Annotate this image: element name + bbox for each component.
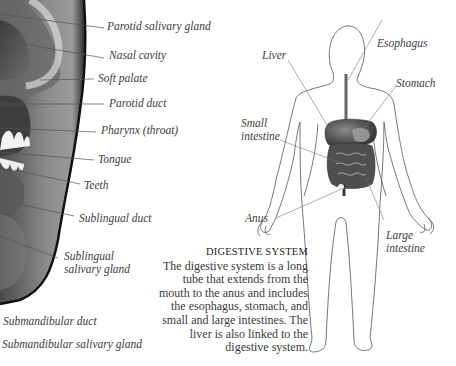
label-teeth: Teeth	[84, 179, 109, 191]
label-soft-palate: Soft palate	[98, 72, 148, 84]
label-line: Sublingual	[64, 250, 130, 263]
label-submandibular-salivary-gland: Submandibular salivary gland	[2, 338, 142, 350]
label-nasal-cavity: Nasal cavity	[109, 49, 166, 61]
label-stomach: Stomach	[396, 77, 436, 89]
label-pharynx: Pharynx (throat)	[101, 124, 178, 136]
label-large-intestine: Large intestine	[386, 229, 425, 255]
caption-title: DIGESTIVE SYSTEM	[150, 245, 308, 259]
label-parotid-duct: Parotid duct	[109, 97, 166, 109]
label-submandibular-duct: Submandibular duct	[3, 315, 97, 327]
label-line: Small	[241, 117, 280, 130]
label-line: intestine	[241, 130, 280, 143]
digestive-system-diagram: Parotid salivary gland Nasal cavity Soft…	[0, 0, 456, 366]
digestive-organs	[325, 74, 377, 196]
label-line: salivary gland	[64, 263, 130, 276]
caption-body: The digestive system is a long tube that…	[159, 259, 308, 355]
label-sublingual-salivary-gland: Sublingual salivary gland	[64, 250, 130, 276]
label-anus: Anus	[245, 212, 268, 224]
label-tongue: Tongue	[98, 153, 131, 165]
body-leader-lines	[276, 20, 396, 220]
label-parotid-salivary-gland: Parotid salivary gland	[107, 20, 211, 32]
label-liver: Liver	[262, 49, 286, 61]
label-esophagus: Esophagus	[377, 37, 427, 49]
label-line: intestine	[386, 242, 425, 255]
label-sublingual-duct: Sublingual duct	[79, 212, 152, 224]
caption-block: DIGESTIVE SYSTEM The digestive system is…	[150, 245, 308, 355]
label-small-intestine: Small intestine	[241, 117, 280, 143]
label-line: Large	[386, 229, 425, 242]
